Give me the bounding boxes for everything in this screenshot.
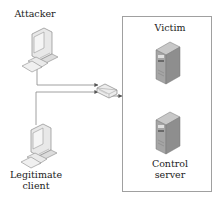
control-server-label-line-1: Control	[140, 158, 200, 169]
control-server-label-line-2: server	[140, 169, 200, 180]
legitimate-client-label: Legitimate client	[5, 169, 67, 191]
victim-label: Victim	[145, 22, 195, 33]
desktop-computer-icon	[21, 124, 57, 168]
server-tower-icon	[156, 42, 180, 84]
legitimate-client-label-line-2: client	[5, 180, 67, 191]
attacker-label: Attacker	[10, 8, 60, 19]
desktop-computer-icon	[22, 28, 58, 72]
control-server-label: Control server	[140, 158, 200, 180]
server-tower-icon	[156, 112, 180, 154]
client-to-router-line	[36, 92, 98, 125]
attacker-to-router-line	[37, 67, 98, 85]
legitimate-client-label-line-1: Legitimate	[5, 169, 67, 180]
